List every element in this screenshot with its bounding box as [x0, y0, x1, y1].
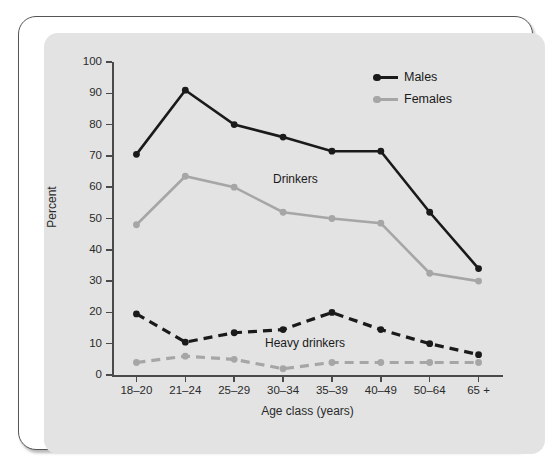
figure-frame [18, 16, 533, 450]
plot-panel [44, 33, 545, 454]
chart-page: 0102030405060708090100 18–2021–2425–2930… [0, 0, 551, 467]
